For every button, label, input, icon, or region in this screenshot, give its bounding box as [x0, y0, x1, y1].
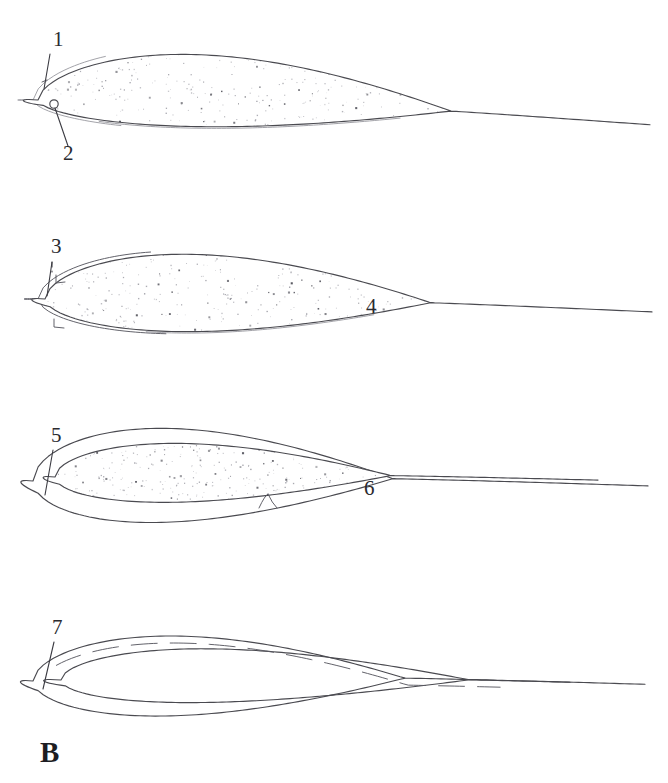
leading-edge-step-bottom-specimen-2 [54, 319, 64, 328]
callout-1-leader-line [44, 54, 50, 89]
callout-5-label: 5 [51, 423, 62, 447]
callout-7-leader-line [43, 642, 54, 689]
specimen-3-group [21, 428, 648, 522]
specimen-1-group [18, 51, 655, 152]
callout-1-label: 1 [53, 27, 64, 51]
dashed-upper-surface-specimen-4 [56, 643, 500, 687]
callout-7-label: 7 [52, 615, 63, 639]
callout-3-label: 3 [51, 234, 62, 258]
body-fill-specimen-3 [43, 443, 598, 502]
callout-4-label: 4 [366, 294, 377, 318]
airfoil-sections-illustration: 1234567 B [0, 0, 668, 783]
specimen-2-group [24, 252, 657, 350]
inner-loop-specimen-4 [44, 649, 570, 703]
specimen-4-group [20, 636, 645, 716]
outer-envelope-leading-edge-specimen-4 [20, 636, 645, 716]
body-fill-specimen-1 [23, 54, 650, 126]
figure-panel-b: 1234567 B [0, 0, 668, 783]
callout-5-leader-line [45, 450, 53, 495]
callout-6-label: 6 [364, 476, 375, 500]
panel-letter-b: B [40, 736, 59, 768]
callout-2-label: 2 [63, 141, 74, 165]
